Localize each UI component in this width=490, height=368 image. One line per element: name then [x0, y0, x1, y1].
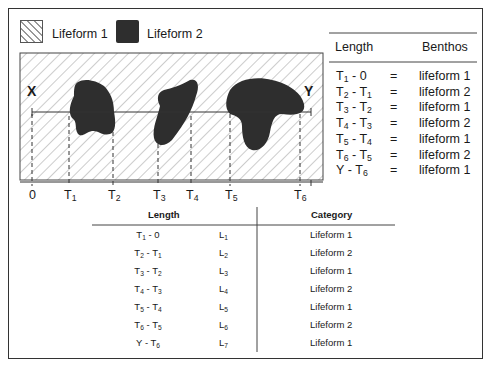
right-header-length: Length	[335, 40, 373, 56]
row-length-symbol: L4	[219, 280, 228, 298]
row-benthos: lifeform 1	[419, 100, 470, 116]
row-length: T6 - T5	[336, 148, 372, 164]
row-interval: T1 - 0	[128, 226, 168, 244]
row-category: Lifeform 1	[310, 298, 352, 316]
row-length-symbol: L7	[219, 334, 228, 352]
tick-t5: T5	[225, 188, 238, 204]
row-interval: T5 - T4	[128, 298, 168, 316]
row-category: Lifeform 1	[310, 262, 352, 280]
row-category: Lifeform 1	[310, 334, 352, 352]
right-header-benthos: Benthos	[422, 40, 468, 56]
row-equals: =	[390, 85, 397, 101]
row-benthos: lifeform 1	[419, 69, 470, 85]
row-length-symbol: L3	[219, 262, 228, 280]
row-equals: =	[390, 100, 397, 116]
row-equals: =	[390, 163, 397, 179]
row-length: T5 - T4	[336, 132, 372, 148]
start-label-x: X	[27, 84, 36, 100]
row-interval: T2 - T1	[128, 244, 168, 262]
end-label-y: Y	[304, 84, 313, 100]
row-category: Lifeform 2	[310, 244, 352, 262]
row-category: Lifeform 1	[310, 226, 352, 244]
row-benthos: lifeform 2	[419, 85, 470, 101]
row-category: Lifeform 2	[310, 280, 352, 298]
row-benthos: lifeform 1	[419, 163, 470, 179]
row-equals: =	[390, 148, 397, 164]
row-length: T3 - T2	[336, 100, 372, 116]
tick-t6: T6	[294, 188, 307, 204]
row-length-symbol: L6	[219, 316, 228, 334]
row-interval: Y - T6	[128, 334, 168, 352]
row-benthos: lifeform 2	[419, 148, 470, 164]
row-benthos: lifeform 1	[419, 132, 470, 148]
bottom-header-category: Category	[311, 206, 352, 224]
tick-0: 0	[29, 188, 36, 204]
tick-t1: T1	[64, 188, 77, 204]
row-interval: T6 - T5	[128, 316, 168, 334]
bottom-header-length: Length	[148, 206, 180, 224]
row-length: T1 - 0	[336, 69, 367, 85]
row-length: T4 - T3	[336, 116, 372, 132]
row-benthos: lifeform 2	[419, 116, 470, 132]
row-interval: T4 - T3	[128, 280, 168, 298]
row-length-symbol: L2	[219, 244, 228, 262]
row-length: Y - T6	[336, 163, 368, 179]
tick-t4: T4	[186, 188, 199, 204]
row-length: T2 - T1	[336, 85, 372, 101]
row-category: Lifeform 2	[310, 316, 352, 334]
row-equals: =	[390, 132, 397, 148]
row-equals: =	[390, 116, 397, 132]
row-interval: T3 - T2	[128, 262, 168, 280]
tick-t3: T3	[153, 188, 166, 204]
transect-diagram	[0, 0, 490, 368]
row-length-symbol: L5	[219, 298, 228, 316]
row-equals: =	[390, 69, 397, 85]
row-length-symbol: L1	[219, 226, 228, 244]
tick-t2: T2	[108, 188, 121, 204]
